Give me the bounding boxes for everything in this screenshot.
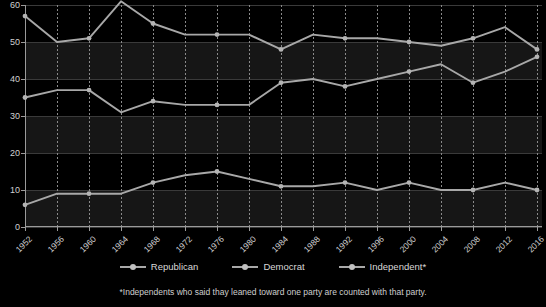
x-axis-tick-label: 2012 [486, 234, 514, 262]
y-axis-tick-label: 10 [0, 185, 20, 195]
data-point-marker [279, 80, 284, 85]
x-axis-tick-mark [89, 227, 90, 231]
x-axis-tick-mark [345, 227, 346, 231]
data-point-marker [471, 80, 476, 85]
data-point-marker [535, 47, 540, 52]
chart-container: 0102030405060 19521956196019641968197219… [0, 0, 546, 307]
x-axis-tick-label: 2004 [422, 234, 450, 262]
x-axis-tick-mark [281, 227, 282, 231]
x-axis-tick-mark [25, 227, 26, 231]
y-axis-tick-label: 40 [0, 74, 20, 84]
x-axis-tick-mark [473, 227, 474, 231]
x-axis-tick-mark [409, 227, 410, 231]
legend-item-republican[interactable]: Republican [120, 261, 199, 272]
y-axis-tick-label: 20 [0, 148, 20, 158]
y-axis-tick-label: 50 [0, 37, 20, 47]
data-point-marker [151, 21, 156, 26]
x-axis-tick-mark [153, 227, 154, 231]
x-axis-tick-label: 1960 [70, 234, 98, 262]
line-marker-icon [232, 263, 258, 271]
x-axis-tick-label: 1964 [102, 234, 130, 262]
legend-item-independent[interactable]: Independent* [339, 261, 427, 272]
x-axis-tick-mark [505, 227, 506, 231]
x-axis-tick-label: 1984 [262, 234, 290, 262]
data-point-marker [151, 99, 156, 104]
series-lines [25, 5, 542, 227]
data-point-marker [87, 36, 92, 41]
x-axis-tick-mark [313, 227, 314, 231]
x-axis-tick-label: 1976 [198, 234, 226, 262]
x-axis-tick-mark [57, 227, 58, 231]
y-axis-tick-mark [21, 190, 25, 191]
data-point-marker [407, 69, 412, 74]
line-marker-icon [339, 263, 365, 271]
x-axis-tick-label: 1968 [134, 234, 162, 262]
data-point-marker [407, 40, 412, 45]
y-axis-tick-label: 0 [0, 222, 20, 232]
x-axis-tick-label: 2016 [518, 234, 546, 262]
legend-label: Independent* [370, 261, 427, 272]
legend-item-democrat[interactable]: Democrat [232, 261, 304, 272]
data-point-marker [471, 188, 476, 193]
plot-area [25, 5, 542, 227]
x-axis-tick-mark [217, 227, 218, 231]
y-axis-tick-mark [21, 153, 25, 154]
data-point-marker [23, 202, 28, 207]
x-axis-tick-label: 1988 [294, 234, 322, 262]
data-point-marker [535, 188, 540, 193]
x-axis-tick-label: 2000 [390, 234, 418, 262]
y-axis-tick-mark [21, 79, 25, 80]
chart-legend: Republican Democrat Independent* [0, 261, 546, 272]
y-axis-tick-label: 60 [0, 0, 20, 10]
x-axis-tick-mark [537, 227, 538, 231]
x-axis-tick-mark [249, 227, 250, 231]
data-point-marker [535, 54, 540, 59]
line-marker-icon [120, 263, 146, 271]
x-axis-tick-label: 1956 [38, 234, 66, 262]
data-point-marker [23, 14, 28, 19]
x-axis-tick-label: 1972 [166, 234, 194, 262]
data-point-marker [343, 84, 348, 89]
data-point-marker [87, 191, 92, 196]
data-point-marker [279, 47, 284, 52]
x-axis-tick-mark [185, 227, 186, 231]
x-axis-tick-mark [121, 227, 122, 231]
x-axis-tick-label: 1992 [326, 234, 354, 262]
y-axis-tick-mark [21, 42, 25, 43]
x-axis-tick-label: 1980 [230, 234, 258, 262]
x-axis-tick-mark [377, 227, 378, 231]
x-axis-tick-mark [441, 227, 442, 231]
data-point-marker [471, 36, 476, 41]
data-point-marker [343, 180, 348, 185]
data-point-marker [87, 88, 92, 93]
data-point-marker [215, 169, 220, 174]
y-axis-tick-mark [21, 5, 25, 6]
data-point-marker [215, 103, 220, 108]
series-line-democrat [25, 1, 537, 49]
legend-label: Democrat [263, 261, 304, 272]
x-axis-tick-label: 2008 [454, 234, 482, 262]
data-point-marker [343, 36, 348, 41]
y-axis-tick-mark [21, 116, 25, 117]
gridline-horizontal [25, 227, 542, 228]
data-point-marker [279, 184, 284, 189]
data-point-marker [215, 32, 220, 37]
data-point-marker [151, 180, 156, 185]
y-axis-tick-label: 30 [0, 111, 20, 121]
chart-footnote: *Independents who said thay leaned towar… [0, 287, 546, 297]
x-axis-tick-label: 1996 [358, 234, 386, 262]
x-axis-tick-label: 1952 [6, 234, 34, 262]
data-point-marker [407, 180, 412, 185]
legend-label: Republican [151, 261, 199, 272]
data-point-marker [23, 95, 28, 100]
